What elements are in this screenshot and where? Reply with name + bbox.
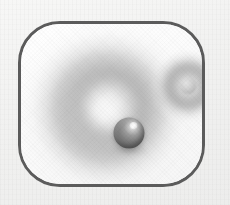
main-halo-inner-ring (53, 53, 165, 159)
image-title: Sphere with halo icon (0, 0, 1, 1)
image-description: Rounded-square framed illustration of a … (0, 0, 1, 1)
illustration-canvas: Sphere with halo icon Rounded-square fra… (0, 0, 230, 205)
satellite-sphere (180, 78, 197, 95)
rounded-square-frame (18, 21, 205, 187)
main-sphere (114, 118, 145, 149)
specular-highlight-icon (130, 122, 138, 129)
